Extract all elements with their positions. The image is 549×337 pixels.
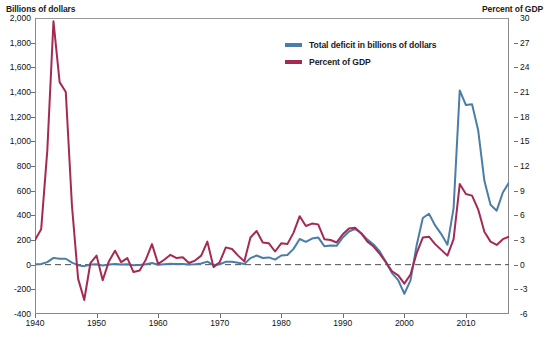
right-axis-title: Percent of GDP: [482, 4, 543, 14]
plot-area: [35, 18, 509, 314]
x-axis-tick-label: 1980: [272, 318, 291, 328]
y2-axis-tick-label: 0: [520, 260, 525, 270]
left-axis: -400-20002004006008001,0001,2001,4001,60…: [0, 18, 31, 314]
x-axis-tick-label: 1990: [333, 318, 352, 328]
chart-canvas: Billions of dollars Percent of GDP -400-…: [0, 0, 549, 337]
x-axis-tick-label: 1940: [26, 318, 45, 328]
x-axis: 19401950196019701980199020002010: [35, 314, 509, 336]
line-swatch-icon: [285, 43, 302, 47]
y2-axis-tick-label: 3: [520, 235, 525, 245]
data-series-line: [35, 90, 509, 293]
legend-item-label: Percent of GDP: [309, 57, 371, 67]
legend: Total deficit in billions of dollars Per…: [285, 40, 437, 67]
y2-axis-tick-mark: [514, 215, 518, 216]
y2-axis-tick-label: 30: [520, 13, 529, 23]
legend-item: Percent of GDP: [285, 57, 437, 67]
legend-item-label: Total deficit in billions of dollars: [309, 40, 437, 50]
y-axis-tick-label: 2,000: [10, 13, 31, 23]
y2-axis-tick-mark: [514, 265, 518, 266]
x-axis-tick-label: 2010: [456, 318, 475, 328]
y-axis-tick-label: 1,800: [10, 38, 31, 48]
x-axis-tick-mark: [158, 314, 159, 318]
y2-axis-tick-label: 6: [520, 210, 525, 220]
y2-axis-tick-label: 15: [520, 136, 529, 146]
y-axis-tick-label: 600: [17, 186, 31, 196]
y-axis-tick-label: 400: [17, 210, 31, 220]
y-axis-tick-label: 200: [17, 235, 31, 245]
y-axis-tick-label: 1,600: [10, 62, 31, 72]
y-axis-tick-label: -200: [14, 284, 31, 294]
series-canvas: [35, 18, 509, 314]
y2-axis-tick-label: -3: [520, 284, 528, 294]
y-axis-tick-label: 1,000: [10, 136, 31, 146]
y2-axis-tick-label: 9: [520, 186, 525, 196]
y2-axis-tick-label: -6: [520, 309, 528, 319]
y2-axis-tick-label: 12: [520, 161, 529, 171]
y2-axis-tick-mark: [514, 43, 518, 44]
y2-axis-tick-label: 24: [520, 62, 529, 72]
right-axis: -6-3036912151821242730: [514, 18, 549, 314]
y2-axis-tick-mark: [514, 166, 518, 167]
legend-item: Total deficit in billions of dollars: [285, 40, 437, 50]
y2-axis-tick-label: 27: [520, 38, 529, 48]
y2-axis-tick-mark: [514, 67, 518, 68]
x-axis-tick-mark: [281, 314, 282, 318]
x-axis-tick-label: 2000: [395, 318, 414, 328]
y2-axis-tick-label: 21: [520, 87, 529, 97]
x-axis-tick-label: 1950: [87, 318, 106, 328]
x-axis-tick-mark: [466, 314, 467, 318]
y2-axis-tick-mark: [514, 289, 518, 290]
x-axis-tick-label: 1960: [149, 318, 168, 328]
y2-axis-tick-label: 18: [520, 112, 529, 122]
y2-axis-tick-mark: [514, 191, 518, 192]
y2-axis-tick-mark: [514, 92, 518, 93]
y2-axis-tick-mark: [514, 117, 518, 118]
x-axis-tick-mark: [343, 314, 344, 318]
x-axis-tick-mark: [97, 314, 98, 318]
y2-axis-tick-mark: [514, 240, 518, 241]
x-axis-tick-label: 1970: [210, 318, 229, 328]
y-axis-tick-label: 1,400: [10, 87, 31, 97]
line-swatch-icon: [285, 60, 302, 64]
y-axis-tick-label: 800: [17, 161, 31, 171]
y2-axis-tick-mark: [514, 141, 518, 142]
y-axis-tick-label: 1,200: [10, 112, 31, 122]
x-axis-tick-mark: [404, 314, 405, 318]
x-axis-tick-mark: [35, 314, 36, 318]
x-axis-tick-mark: [220, 314, 221, 318]
